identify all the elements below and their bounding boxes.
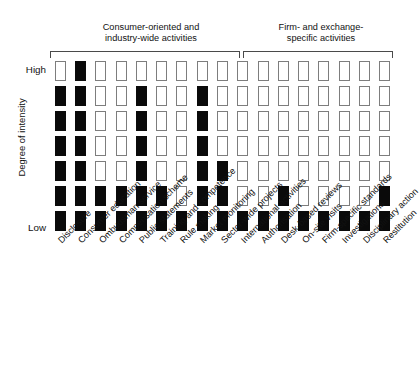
intensity-cell-13-4 <box>298 136 309 156</box>
grid-cell <box>233 134 253 159</box>
grid-cell <box>253 59 273 84</box>
intensity-cell-1-7 <box>55 61 66 81</box>
intensity-cell-5-5 <box>136 111 147 131</box>
intensity-cell-10-3 <box>237 161 248 181</box>
grid-cell <box>314 109 334 134</box>
intensity-cell-7-7 <box>176 61 187 81</box>
intensity-cell-3-7 <box>95 61 106 81</box>
grid-cell <box>70 183 90 208</box>
grid-cell <box>192 134 212 159</box>
grid-cell <box>172 109 192 134</box>
intensity-cell-5-3 <box>136 161 147 181</box>
grid-cell <box>131 134 151 159</box>
intensity-cell-8-3 <box>197 161 208 181</box>
grid-cell <box>50 59 70 84</box>
grid-cell <box>70 109 90 134</box>
grid-cell <box>192 158 212 183</box>
y-axis-tick-low: Low <box>6 222 46 233</box>
grid-cell <box>151 134 171 159</box>
grid-cell <box>314 84 334 109</box>
intensity-cell-15-4 <box>339 136 350 156</box>
intensity-cell-12-5 <box>278 111 289 131</box>
grid-cell <box>192 59 212 84</box>
grid-cell <box>50 84 70 109</box>
intensity-cell-2-7 <box>75 61 86 81</box>
intensity-cell-2-2 <box>75 186 86 206</box>
grid-cell <box>354 109 374 134</box>
intensity-cell-13-5 <box>298 111 309 131</box>
grid-cell <box>50 109 70 134</box>
intensity-cell-7-4 <box>176 136 187 156</box>
grid-cell <box>70 84 90 109</box>
intensity-cell-9-6 <box>217 86 228 106</box>
grid-cell <box>233 109 253 134</box>
intensity-cell-10-7 <box>237 61 248 81</box>
intensity-cell-1-4 <box>55 136 66 156</box>
intensity-cell-13-7 <box>298 61 309 81</box>
y-axis-title: Degree of intensity <box>16 73 27 203</box>
group-bracket-left <box>50 51 240 58</box>
intensity-cell-3-5 <box>95 111 106 131</box>
intensity-cell-12-7 <box>278 61 289 81</box>
grid-cell <box>354 84 374 109</box>
grid-cell <box>334 84 354 109</box>
grid-cell <box>151 84 171 109</box>
intensity-cell-16-7 <box>359 61 370 81</box>
grid-cell <box>192 84 212 109</box>
intensity-cell-4-4 <box>116 136 127 156</box>
grid-cell <box>314 59 334 84</box>
grid-cell <box>273 109 293 134</box>
grid-cell <box>375 109 395 134</box>
intensity-cell-17-4 <box>379 136 390 156</box>
intensity-cell-6-4 <box>156 136 167 156</box>
grid-cell <box>354 59 374 84</box>
grid-cell <box>111 134 131 159</box>
grid-cell <box>131 84 151 109</box>
grid-cell <box>294 109 314 134</box>
intensity-cell-4-3 <box>116 161 127 181</box>
intensity-cell-1-6 <box>55 86 66 106</box>
grid-cell <box>111 59 131 84</box>
intensity-cell-11-6 <box>258 86 269 106</box>
grid-cell <box>111 109 131 134</box>
intensity-cell-11-5 <box>258 111 269 131</box>
grid-cell <box>334 109 354 134</box>
grid-cell <box>172 84 192 109</box>
intensity-cell-9-4 <box>217 136 228 156</box>
grid-cell <box>294 134 314 159</box>
intensity-cell-14-4 <box>318 136 329 156</box>
intensity-cell-3-6 <box>95 86 106 106</box>
intensity-cell-6-3 <box>156 161 167 181</box>
intensity-cell-2-3 <box>75 161 86 181</box>
grid-cell <box>375 134 395 159</box>
intensity-cell-2-4 <box>75 136 86 156</box>
grid-cell <box>70 134 90 159</box>
group-heading-consumer-oriented: Consumer-oriented andindustry-wide activ… <box>62 22 240 45</box>
grid-cell <box>50 134 70 159</box>
grid-cell <box>172 134 192 159</box>
intensity-cell-17-6 <box>379 86 390 106</box>
grid-cell <box>314 134 334 159</box>
intensity-cell-15-3 <box>339 161 350 181</box>
intensity-cell-9-7 <box>217 61 228 81</box>
intensity-cell-12-4 <box>278 136 289 156</box>
grid-cell <box>111 158 131 183</box>
intensity-cell-14-6 <box>318 86 329 106</box>
grid-cell <box>334 134 354 159</box>
grid-cell <box>253 158 273 183</box>
intensity-cell-6-7 <box>156 61 167 81</box>
intensity-cell-3-4 <box>95 136 106 156</box>
y-axis-tick-high: High <box>6 64 46 75</box>
grid-cell <box>50 183 70 208</box>
intensity-cell-8-4 <box>197 136 208 156</box>
intensity-cell-16-4 <box>359 136 370 156</box>
grid-cell <box>91 134 111 159</box>
grid-cell <box>253 134 273 159</box>
intensity-cell-6-6 <box>156 86 167 106</box>
intensity-cell-5-4 <box>136 136 147 156</box>
grid-cell <box>212 134 232 159</box>
intensity-cell-11-7 <box>258 61 269 81</box>
grid-cell <box>294 59 314 84</box>
intensity-cell-14-5 <box>318 111 329 131</box>
intensity-cell-10-5 <box>237 111 248 131</box>
